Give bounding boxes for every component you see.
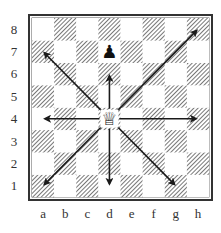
square-c6 <box>76 63 98 86</box>
square-b1 <box>54 175 76 198</box>
square-e8 <box>121 18 143 41</box>
rank-label-2: 2 <box>11 156 18 171</box>
square-g3 <box>165 130 187 153</box>
square-f8 <box>143 18 165 41</box>
square-h6 <box>187 63 209 86</box>
square-g2 <box>165 152 187 175</box>
rank-label-1: 1 <box>11 178 18 193</box>
square-a6 <box>32 63 54 86</box>
square-f5 <box>143 85 165 108</box>
square-f1 <box>143 175 165 198</box>
square-c1 <box>76 175 98 198</box>
square-g5 <box>165 85 187 108</box>
square-f7 <box>143 40 165 63</box>
white-queen-icon: ♕ <box>101 108 117 129</box>
square-g8 <box>165 18 187 41</box>
square-a8 <box>32 18 54 41</box>
square-c8 <box>76 18 98 41</box>
square-c7 <box>76 40 98 63</box>
file-labels: abcdefgh <box>40 206 202 221</box>
rank-label-8: 8 <box>11 22 18 37</box>
rank-label-7: 7 <box>11 44 18 59</box>
square-e7 <box>121 40 143 63</box>
square-f3 <box>143 130 165 153</box>
square-h2 <box>187 152 209 175</box>
black-pawn-icon: ♟ <box>101 41 117 62</box>
square-e2 <box>121 152 143 175</box>
square-a3 <box>32 130 54 153</box>
square-h7 <box>187 40 209 63</box>
square-h5 <box>187 85 209 108</box>
file-label-e: e <box>129 206 135 221</box>
file-label-f: f <box>152 206 157 221</box>
square-g6 <box>165 63 187 86</box>
square-a2 <box>32 152 54 175</box>
file-label-a: a <box>40 206 46 221</box>
square-c2 <box>76 152 98 175</box>
square-h1 <box>187 175 209 198</box>
square-b7 <box>54 40 76 63</box>
rank-label-6: 6 <box>11 66 18 81</box>
rank-label-3: 3 <box>11 134 18 149</box>
rank-labels: 12345678 <box>11 22 18 194</box>
square-b8 <box>54 18 76 41</box>
square-e6 <box>121 63 143 86</box>
file-label-c: c <box>84 206 90 221</box>
square-b3 <box>54 130 76 153</box>
file-label-h: h <box>195 206 202 221</box>
file-label-b: b <box>62 206 69 221</box>
file-label-d: d <box>106 206 113 221</box>
rank-label-4: 4 <box>11 111 18 126</box>
square-a5 <box>32 85 54 108</box>
rank-label-5: 5 <box>11 89 18 104</box>
square-e1 <box>121 175 143 198</box>
file-label-g: g <box>173 206 180 221</box>
square-h3 <box>187 130 209 153</box>
square-d8 <box>98 18 120 41</box>
square-b5 <box>54 85 76 108</box>
chess-diagram: ♕♟ 12345678 abcdefgh <box>0 0 221 233</box>
